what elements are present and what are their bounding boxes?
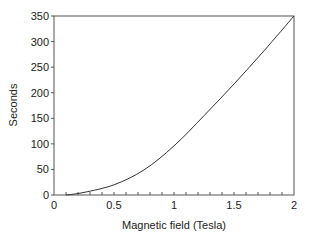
y-tick-label: 350 bbox=[31, 10, 49, 22]
plot-border bbox=[54, 16, 294, 195]
x-tick-label: 0.5 bbox=[106, 199, 121, 211]
y-tick-label: 200 bbox=[31, 87, 49, 99]
y-tick-label: 300 bbox=[31, 36, 49, 48]
y-tick-label: 250 bbox=[31, 61, 49, 73]
chart: 050100150200250300350 00.511.52 Magnetic… bbox=[0, 0, 312, 242]
x-axis-label: Magnetic field (Tesla) bbox=[122, 219, 226, 231]
x-tick-label: 2 bbox=[291, 199, 297, 211]
x-tick-label: 1.5 bbox=[226, 199, 241, 211]
plot-frame bbox=[54, 16, 294, 195]
y-axis-ticks: 050100150200250300350 bbox=[31, 10, 54, 201]
y-tick-label: 0 bbox=[43, 189, 49, 201]
x-tick-label: 1 bbox=[171, 199, 177, 211]
y-tick-label: 100 bbox=[31, 138, 49, 150]
y-tick-label: 50 bbox=[37, 163, 49, 175]
y-axis-label: Seconds bbox=[7, 83, 19, 126]
y-tick-label: 150 bbox=[31, 112, 49, 124]
x-tick-label: 0 bbox=[51, 199, 57, 211]
data-line bbox=[66, 16, 294, 195]
